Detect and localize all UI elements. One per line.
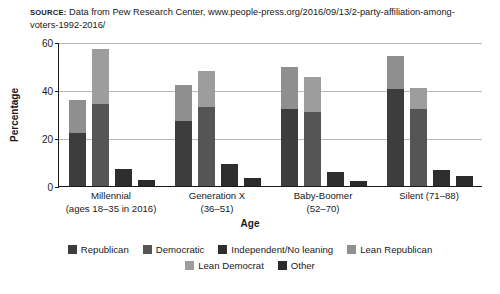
legend-swatch-icon — [68, 245, 77, 254]
y-tick-label: 0 — [47, 182, 53, 193]
source-label: SOURCE: — [30, 8, 66, 17]
y-tick-label: 20 — [42, 134, 53, 145]
bar-segment[interactable] — [221, 164, 238, 186]
x-axis-title: Age — [0, 218, 500, 229]
legend-item[interactable]: Other — [278, 260, 315, 271]
legend-item[interactable]: Republican — [68, 244, 129, 255]
legend-label: Lean Republican — [360, 244, 432, 255]
x-axis-group-label: Generation X(36–51) — [164, 190, 270, 215]
bar-group — [165, 43, 271, 186]
x-label-main: Generation X — [164, 190, 270, 203]
bar-stack[interactable] — [198, 71, 215, 186]
bar-segment[interactable] — [138, 180, 155, 186]
legend-item[interactable]: Democratic — [143, 244, 205, 255]
bar-segment[interactable] — [198, 107, 215, 186]
legend-swatch-icon — [347, 245, 356, 254]
bar-segment[interactable] — [350, 181, 367, 186]
bar-segment[interactable] — [92, 49, 109, 104]
bar-segment[interactable] — [281, 109, 298, 186]
bar-segment[interactable] — [175, 85, 192, 121]
x-axis-group-label: Silent (71–88) — [376, 190, 482, 203]
bar-segment[interactable] — [456, 176, 473, 186]
bar-stack[interactable] — [327, 172, 344, 186]
bar-segment[interactable] — [69, 100, 86, 134]
bar-stack[interactable] — [350, 181, 367, 186]
y-axis-title: Percentage — [9, 88, 20, 142]
chart-legend: RepublicanDemocraticIndependent/No leani… — [0, 244, 500, 276]
source-note: SOURCE: Data from Pew Research Center, w… — [30, 6, 482, 32]
x-label-main: Millennial — [58, 190, 164, 203]
x-label-sub: (52–70) — [270, 203, 376, 216]
bar-segment[interactable] — [304, 77, 321, 112]
y-tick-mark — [55, 187, 59, 188]
bar-stack[interactable] — [281, 67, 298, 186]
bar-group — [271, 43, 377, 186]
bar-segment[interactable] — [327, 172, 344, 186]
legend-label: Democratic — [156, 244, 205, 255]
legend-row-secondary: Lean DemocratOther — [0, 260, 500, 271]
bar-segment[interactable] — [410, 88, 427, 110]
bar-stack[interactable] — [244, 178, 261, 186]
bar-segment[interactable] — [115, 169, 132, 186]
legend-label: Other — [291, 260, 315, 271]
y-tick-label: 60 — [42, 38, 53, 49]
bar-segment[interactable] — [387, 56, 404, 88]
bar-stack[interactable] — [138, 180, 155, 186]
bar-stack[interactable] — [92, 49, 109, 186]
plot-area: 0204060 — [58, 43, 482, 187]
legend-swatch-icon — [278, 261, 287, 270]
bar-segment[interactable] — [433, 170, 450, 186]
legend-item[interactable]: Lean Republican — [347, 244, 432, 255]
x-label-sub: (36–51) — [164, 203, 270, 216]
legend-swatch-icon — [185, 261, 194, 270]
x-axis-group-label: Millennial(ages 18–35 in 2016) — [58, 190, 164, 215]
x-label-main: Baby-Boomer — [270, 190, 376, 203]
bar-segment[interactable] — [304, 112, 321, 186]
legend-swatch-icon — [218, 245, 227, 254]
bar-segment[interactable] — [244, 178, 261, 186]
bar-segment[interactable] — [387, 89, 404, 186]
bar-segment[interactable] — [198, 71, 215, 107]
bar-group — [377, 43, 483, 186]
legend-swatch-icon — [143, 245, 152, 254]
legend-label: Independent/No leaning — [231, 244, 333, 255]
bar-segment[interactable] — [281, 67, 298, 109]
x-axis-group-label: Baby-Boomer(52–70) — [270, 190, 376, 215]
bar-stack[interactable] — [175, 85, 192, 186]
bar-stack[interactable] — [456, 176, 473, 186]
legend-label: Lean Democrat — [198, 260, 264, 271]
legend-label: Republican — [81, 244, 129, 255]
source-text: Data from Pew Research Center, www.peopl… — [30, 7, 455, 30]
bar-stack[interactable] — [433, 170, 450, 186]
x-label-main: Silent (71–88) — [376, 190, 482, 203]
bar-stack[interactable] — [410, 88, 427, 186]
legend-item[interactable]: Independent/No leaning — [218, 244, 333, 255]
legend-item[interactable]: Lean Democrat — [185, 260, 264, 271]
x-label-sub: (ages 18–35 in 2016) — [58, 203, 164, 216]
bar-segment[interactable] — [92, 104, 109, 186]
legend-row-primary: RepublicanDemocraticIndependent/No leani… — [0, 244, 500, 255]
bar-stack[interactable] — [304, 77, 321, 186]
bar-segment[interactable] — [69, 133, 86, 186]
bar-stack[interactable] — [221, 164, 238, 186]
bar-segment[interactable] — [175, 121, 192, 186]
bar-stack[interactable] — [387, 56, 404, 186]
bar-stack[interactable] — [69, 100, 86, 186]
bar-stack[interactable] — [115, 169, 132, 186]
bar-group — [59, 43, 165, 186]
bar-segment[interactable] — [410, 109, 427, 186]
y-tick-label: 40 — [42, 86, 53, 97]
